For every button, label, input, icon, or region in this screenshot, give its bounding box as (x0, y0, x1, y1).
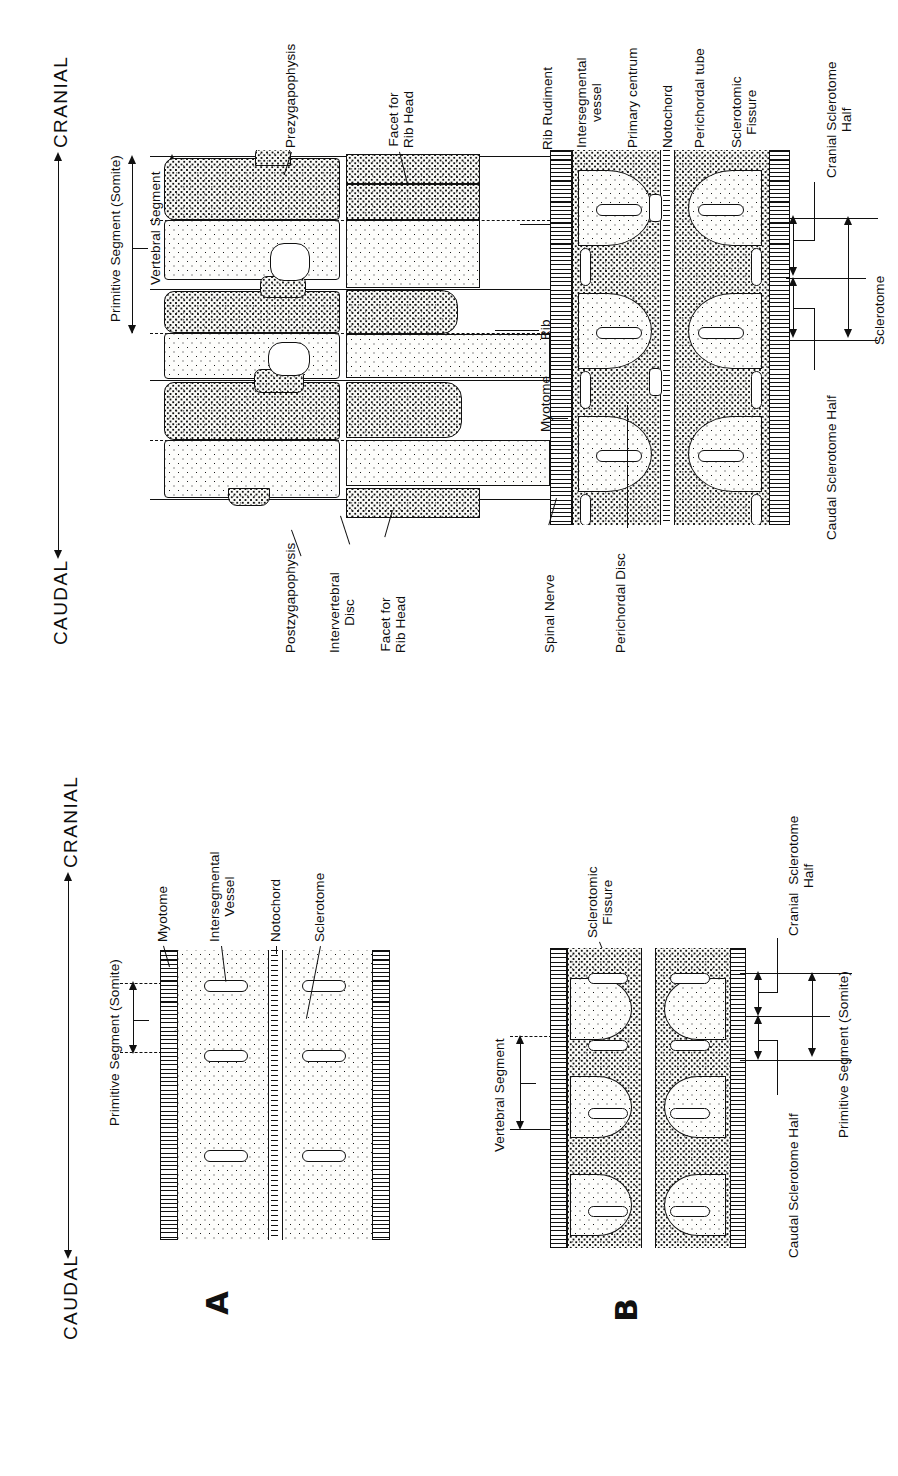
panel-c-myotome-label: Myotome (538, 376, 553, 432)
panel-c-caudal-arrowhead (54, 550, 62, 559)
panel-b-vessel-6 (670, 1108, 710, 1119)
sclerotome-arrowhead-bottom (844, 329, 852, 338)
cranial-half-elbow-h (793, 240, 815, 241)
panel-b-id: B (608, 1298, 644, 1322)
panel-b-primitive-segment-arrowhead-top (808, 972, 816, 981)
myotome-strip-left (550, 150, 572, 525)
sclerotome-guide-top (786, 218, 878, 219)
spinal-nerve-2 (751, 248, 762, 286)
panel-c-caudal-label: CAUDAL (50, 560, 71, 645)
panel-a-primitive-segment-tick (133, 1020, 149, 1021)
panel-b-myotome-right (729, 948, 746, 1248)
vertebra-body-1b (164, 220, 340, 280)
panel-c-vertebral-column (150, 150, 550, 525)
panel-b-cranial-half-3-right (664, 1174, 726, 1236)
panel-c-primary-centrum-label: Primary centrum (625, 47, 640, 148)
panel-b-vessel-8 (670, 1206, 710, 1217)
panel-a-myotome-right (372, 950, 390, 1240)
prezygapophysis-process (255, 150, 291, 166)
notochord-ticks (663, 150, 670, 525)
panel-a-axis-line (68, 880, 69, 1250)
panel-a: CRANIAL CAUDAL Primitive Segment (Somite… (0, 740, 450, 1476)
rib-rudiment-leader (520, 224, 554, 225)
sclerotome-arrowhead-top (844, 216, 852, 225)
panel-a-caudal-label: CAUDAL (60, 1255, 81, 1340)
panel-b-notochord (641, 948, 656, 1248)
caudal-half-elbow-v (814, 308, 815, 370)
cranial-half-arrowhead-top (789, 215, 797, 224)
panel-a-notochord-label: Notochord (268, 879, 283, 942)
sclerotome-arrow-line (848, 224, 849, 336)
panel-c-sclerotome-label: Sclerotome (872, 276, 887, 345)
panel-a-sclerotome-label: Sclerotome (312, 873, 327, 942)
panel-a-primitive-segment-dash-bottom (120, 1052, 162, 1053)
panel-b-vertebral-segment-guide-top (510, 1036, 552, 1037)
perichordal-disc-leader (627, 405, 628, 528)
panel-a-myotome-label: Myotome (155, 886, 170, 942)
perichordal-disc-2 (649, 368, 662, 396)
panel-b-cranial-half-arrowhead-top (754, 971, 762, 980)
panel-c-rib-label: Rib (538, 319, 553, 340)
intersegmental-vessel-2 (698, 204, 744, 216)
rib-head-2 (346, 382, 462, 438)
cranial-half-elbow-v (814, 182, 815, 241)
panel-c-primitive-segment-arrow-bottom (128, 325, 136, 334)
panel-c-axis-line (58, 160, 59, 550)
facet-block-bottom (346, 488, 480, 518)
panel-c-postzygapophysis-label: Postzygapophysis (283, 543, 298, 653)
panel-a-cranial-label: CRANIAL (60, 776, 81, 868)
sclerotome-tick (848, 278, 866, 279)
vertebra-body-2b (164, 333, 340, 379)
panel-b-caudal-half-arrowhead-bottom (754, 1051, 762, 1060)
panel-a-vessel-5 (204, 1150, 248, 1162)
panel-b-cranial-half-elbow-h (758, 992, 778, 993)
vertebra-body-1 (164, 158, 340, 220)
panel-c-cranial-sclerotome-half-label: Cranial Sclerotome Half (824, 61, 854, 178)
panel-b-cranial-half-elbow-v (777, 938, 778, 993)
panel-a-intersegmental-vessel-label: Intersegmental Vessel (207, 851, 237, 942)
panel-c-caudal-sclerotome-half-label: Caudal Sclerotome Half (824, 395, 839, 540)
panel-c-sclerotomic-fissure-label: Sclerotomic Fissure (729, 76, 759, 148)
panel-b-vessel-4 (670, 1040, 710, 1051)
panel-b-caudal-half-elbow-h (758, 1040, 778, 1041)
vertebra-body-3 (164, 382, 340, 440)
panel-b-vessel-7 (588, 1206, 628, 1217)
panel-b-caudal-half-elbow-v (777, 1040, 778, 1095)
panel-b-vertebral-segment-arrow-line (520, 1042, 521, 1128)
intersegmental-vessel-1 (596, 204, 642, 216)
panel-c-spinal-nerve-label: Spinal Nerve (542, 575, 557, 654)
panel-c-cranial-label: CRANIAL (50, 56, 71, 148)
panel-a-notochord-ticks (271, 950, 278, 1240)
panel-a-vessel-3 (204, 1050, 248, 1062)
panel-b-primitive-segment-arrowhead-bottom (808, 1048, 816, 1057)
panel-c-perichordal-tube-label: Perichordal tube (692, 48, 707, 148)
sclerotome-guide-bottom (786, 340, 878, 341)
panel-b-vessel-5 (588, 1108, 628, 1119)
intervertebral-foramen-2 (268, 342, 310, 376)
postzygapophysis-process (228, 488, 270, 506)
panel-b-vessel-1 (588, 973, 628, 984)
panel-b-caudal-sclerotome-half-label: Caudal Sclerotome Half (786, 1113, 801, 1258)
panel-c-notochord-label: Notochord (660, 85, 675, 148)
panel-c-primitive-segment-label: Primitive Segment (Somite) (108, 155, 123, 322)
panel-b-cranial-sclerotome-half-label: Cranial Sclerotome Half (786, 816, 816, 936)
panel-a-primitive-segment-dash-top (120, 983, 162, 984)
intersegmental-vessel-5 (596, 450, 642, 462)
rib-head-1 (346, 290, 458, 334)
panel-a-vessel-2 (302, 980, 346, 992)
panel-c-rib-rudiment-label: Rib Rudiment (540, 67, 555, 150)
panel-a-vessel-4 (302, 1050, 346, 1062)
panel-b-cranial-half-2-right (664, 1076, 726, 1138)
panel-b-myotome-left (550, 948, 567, 1248)
panel-b-sclerotomic-fissure-label: Sclerotomic Fissure (585, 866, 615, 938)
panel-c-primitive-segment-tick (132, 248, 148, 249)
panel-b-vertebral-segment-tick (520, 1083, 536, 1084)
panel-b-drawing (550, 948, 746, 1248)
panel-b-vessel-2 (670, 973, 710, 984)
myotome-leader (546, 418, 568, 419)
vertebra-body-2 (164, 291, 340, 333)
perichordal-disc-1 (649, 194, 662, 222)
caudal-half-elbow-h (793, 308, 815, 309)
caudal-half-arrowhead-bottom (789, 329, 797, 338)
panel-a-cranial-arrowhead (64, 872, 72, 881)
